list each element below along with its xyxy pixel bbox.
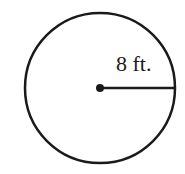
radius-label: 8 ft.	[116, 53, 151, 75]
center-point	[96, 84, 104, 92]
circle-diagram	[0, 0, 185, 174]
